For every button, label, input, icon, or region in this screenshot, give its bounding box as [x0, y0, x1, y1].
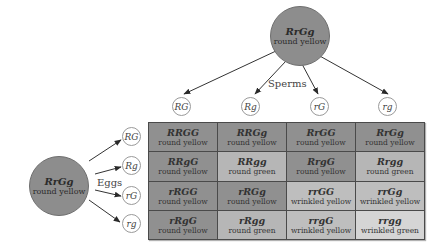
egg-gamete: RG — [122, 127, 141, 146]
grid-cell: rRgground green — [218, 211, 286, 239]
grid-cell: rRGground yellow — [218, 182, 286, 210]
cell-genotype: RrGg — [376, 127, 404, 138]
cell-genotype: rrGG — [308, 186, 334, 197]
female-parent-phenotype: round yellow — [33, 187, 86, 197]
grid-cell: RRGground yellow — [218, 123, 286, 151]
male-parent-genotype: RrGg — [285, 26, 314, 37]
cell-phenotype: round green — [228, 167, 275, 176]
grid-cell: RRgground green — [218, 152, 286, 180]
sperm-gamete: Rg — [241, 97, 260, 116]
cell-phenotype: round yellow — [227, 197, 276, 206]
grid-cell: RrGground yellow — [356, 123, 424, 151]
cell-phenotype: wrinkled yellow — [291, 226, 351, 235]
cell-genotype: RrgG — [307, 156, 335, 167]
egg-gamete: rG — [122, 186, 141, 205]
egg-arrow-1 — [89, 140, 121, 161]
female-parent-genotype: RrGg — [44, 176, 73, 187]
cell-genotype: rrgg — [378, 215, 401, 226]
grid-cell: rRGGround yellow — [149, 182, 217, 210]
grid-cell: RRgGround yellow — [149, 152, 217, 180]
male-parent-phenotype: round yellow — [274, 37, 327, 47]
cell-genotype: RRGG — [167, 127, 199, 138]
grid-cell: rRgGround yellow — [149, 211, 217, 239]
egg-arrow-2 — [95, 167, 121, 174]
cell-genotype: rrGg — [378, 186, 403, 197]
cell-phenotype: round green — [228, 226, 275, 235]
cell-genotype: RRGg — [237, 127, 268, 138]
cell-phenotype: wrinkled yellow — [291, 197, 351, 206]
cell-phenotype: round green — [366, 167, 413, 176]
cell-phenotype: round yellow — [158, 138, 207, 147]
sperm-gamete: rg — [378, 97, 397, 116]
cell-genotype: rRgG — [169, 215, 197, 226]
cell-phenotype: round yellow — [158, 226, 207, 235]
cell-phenotype: wrinkled yellow — [360, 197, 420, 206]
grid-cell: RRGGround yellow — [149, 123, 217, 151]
grid-cell: rrggwrinkled green — [356, 211, 424, 239]
cell-phenotype: round yellow — [365, 138, 414, 147]
cell-genotype: RRgg — [237, 156, 266, 167]
grid-cell: Rrgground green — [356, 152, 424, 180]
sperm-arrow-4 — [318, 55, 388, 94]
cell-phenotype: round yellow — [158, 197, 207, 206]
male-parent-circle: RrGg round yellow — [270, 6, 330, 66]
cell-genotype: RrGG — [306, 127, 335, 138]
egg-arrow-3 — [95, 190, 121, 196]
cell-genotype: Rrgg — [377, 156, 403, 167]
cell-phenotype: wrinkled green — [361, 226, 419, 235]
grid-cell: rrgGwrinkled yellow — [287, 211, 355, 239]
cell-genotype: rRgg — [239, 215, 265, 226]
eggs-label: Eggs — [97, 177, 122, 188]
egg-gamete: Rg — [122, 156, 141, 175]
cell-genotype: rRGG — [168, 186, 197, 197]
punnett-square: RRGGround yellow RRGground yellow RrGGro… — [148, 122, 425, 240]
cell-phenotype: round yellow — [296, 167, 345, 176]
grid-cell: rrGGwrinkled yellow — [287, 182, 355, 210]
egg-arrow-4 — [89, 200, 120, 222]
grid-cell: rrGgwrinkled yellow — [356, 182, 424, 210]
grid-cell: RrgGround yellow — [287, 152, 355, 180]
cell-phenotype: round yellow — [296, 138, 345, 147]
sperm-gamete: rG — [310, 97, 329, 116]
cell-genotype: rRGg — [238, 186, 266, 197]
cell-genotype: rrgG — [309, 215, 334, 226]
female-parent-circle: RrGg round yellow — [29, 156, 89, 216]
sperms-label: Sperms — [268, 78, 307, 89]
sperm-arrow-1 — [184, 51, 276, 94]
cell-genotype: RRgG — [168, 156, 199, 167]
cell-phenotype: round yellow — [158, 167, 207, 176]
cell-phenotype: round yellow — [227, 138, 276, 147]
grid-cell: RrGGround yellow — [287, 123, 355, 151]
egg-gamete: rg — [122, 214, 141, 233]
sperm-gamete: RG — [172, 97, 191, 116]
